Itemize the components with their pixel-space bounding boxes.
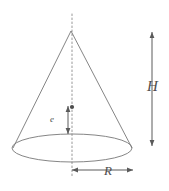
height-label: H [147,79,158,94]
axis-point-dot [70,105,74,109]
cone-geometry-figure: H R e [0,0,169,191]
inner-height-label: e [50,115,54,124]
radius-label: R [104,164,112,177]
cone-diagram-svg [0,0,169,191]
cone-right-slant-line [71,31,132,148]
cone-left-slant-line [13,31,71,148]
